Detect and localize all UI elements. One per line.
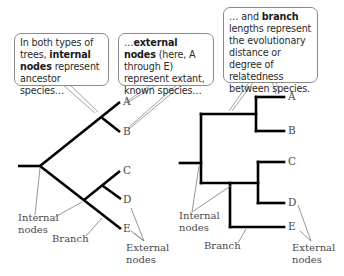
right-leaf-b: B — [288, 125, 296, 136]
left-leaf-a: A — [123, 96, 131, 107]
callout-internal-nodes: In both types of trees, internal nodes r… — [14, 33, 109, 86]
left-leaf-d: D — [123, 194, 131, 205]
left-leaf-b: B — [123, 126, 131, 137]
callout-text: lengths represent the evolutionary dista… — [229, 23, 311, 94]
callout-branch-lengths: … and branch lengths represent the evolu… — [223, 7, 318, 83]
right-internal-nodes-label-2: nodes — [179, 222, 209, 233]
phylogenetic-tree-diagram: In both types of trees, internal nodes r… — [0, 0, 344, 276]
right-leaf-d: D — [288, 197, 296, 208]
left-internal-nodes-label-2: nodes — [18, 224, 48, 235]
right-leaf-e: E — [288, 221, 296, 232]
right-leaf-a: A — [288, 91, 296, 102]
left-branch-label: Branch — [52, 233, 89, 244]
right-leaf-c: C — [288, 156, 296, 167]
left-external-nodes-label-1: External — [126, 242, 169, 253]
callout-bold-term: branch — [262, 11, 299, 22]
pointer-internal — [62, 84, 98, 113]
right-branch-label: Branch — [204, 240, 241, 251]
left-external-nodes-label-2: nodes — [126, 254, 156, 265]
right-internal-nodes-label-1: Internal — [179, 210, 220, 221]
right-external-nodes-label-1: External — [292, 242, 335, 253]
left-internal-nodes-label-1: Internal — [18, 212, 59, 223]
right-external-nodes-label-2: nodes — [292, 254, 322, 265]
left-leaf-e: E — [123, 223, 131, 234]
callout-text: … and — [229, 11, 262, 22]
label-leaders — [35, 166, 311, 243]
right-tree-branches — [180, 97, 284, 227]
left-leaf-c: C — [123, 165, 131, 176]
callout-external-nodes: …external nodes (here, A through E) repr… — [118, 33, 214, 86]
left-tree-branches — [18, 102, 121, 229]
